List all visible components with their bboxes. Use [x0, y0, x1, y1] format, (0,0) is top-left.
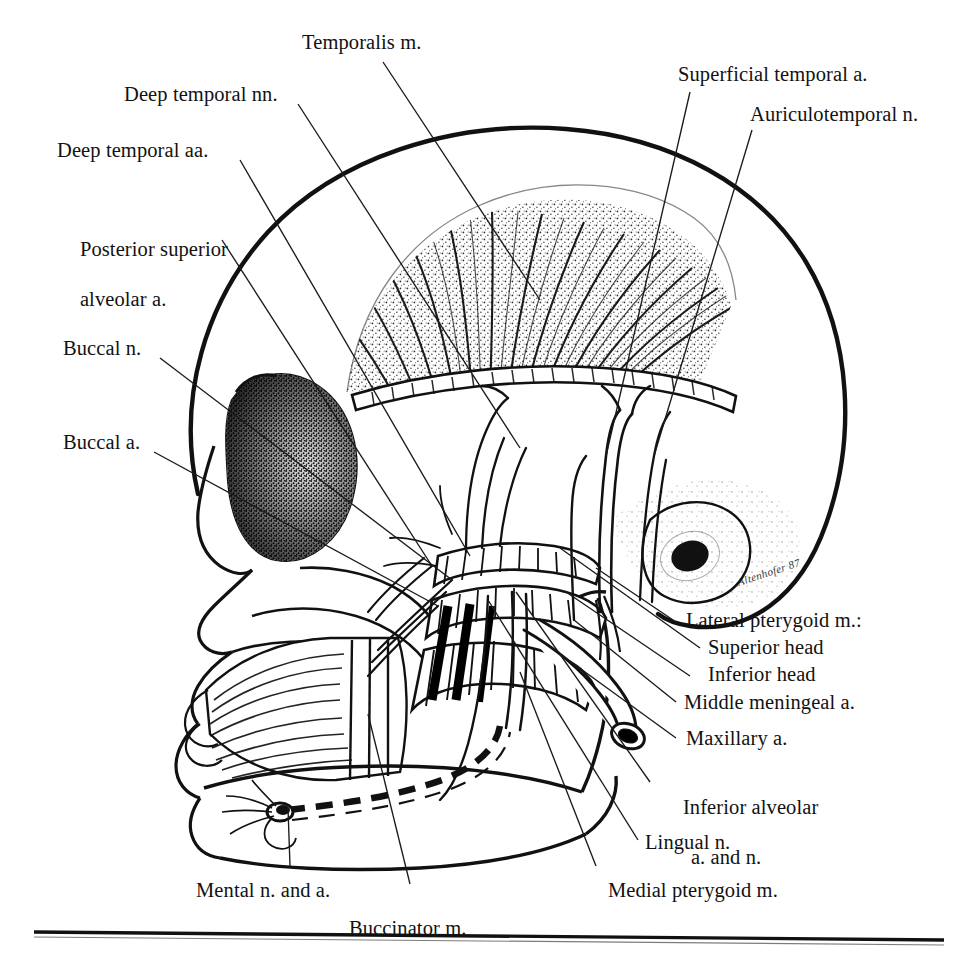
- label-medial-pterygoid: Medial pterygoid m.: [608, 878, 778, 903]
- label-inferior-head: Inferior head: [708, 662, 816, 687]
- occipital-shading: [600, 460, 830, 630]
- label-superficial-temporal-a: Superficial temporal a.: [678, 62, 868, 87]
- lateral-pterygoid-superior-head: [434, 543, 600, 586]
- label-deep-temporal-aa: Deep temporal aa.: [57, 138, 208, 163]
- label-middle-meningeal-a: Middle meningeal a.: [684, 690, 855, 715]
- label-buccal-n: Buccal n.: [63, 336, 141, 361]
- posterior-superior-alveolar-artery: [368, 558, 432, 620]
- anatomical-plate: Temporalis m. Deep temporal nn. Deep tem…: [0, 0, 967, 970]
- label-superior-head: Superior head: [708, 635, 824, 660]
- label-ia-line1: Inferior alveolar: [683, 796, 818, 818]
- bottom-horizontal-rule: [34, 932, 944, 945]
- label-auriculotemporal-n: Auriculotemporal n.: [750, 102, 918, 127]
- label-temporalis: Temporalis m.: [302, 30, 421, 55]
- label-psa-line1: Posterior superior: [80, 238, 228, 260]
- label-lateral-pterygoid: Lateral pterygoid m.:: [686, 608, 862, 633]
- label-buccinator: Buccinator m.: [349, 916, 466, 941]
- label-maxillary-a: Maxillary a.: [686, 726, 787, 751]
- label-psa-line2: alveolar a.: [80, 288, 166, 310]
- label-deep-temporal-nn: Deep temporal nn.: [124, 82, 278, 107]
- mental-foramen: [222, 780, 296, 849]
- label-posterior-superior-alveolar: Posterior superior alveolar a.: [59, 212, 228, 337]
- label-mental-n-and-a: Mental n. and a.: [196, 878, 330, 903]
- label-lingual-n: Lingual n.: [645, 830, 730, 855]
- label-buccal-a: Buccal a.: [63, 430, 140, 455]
- lateral-pterygoid-inferior-head: [426, 586, 606, 638]
